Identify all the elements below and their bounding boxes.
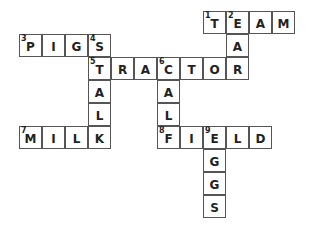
crossword-cell[interactable]: R [226,57,249,80]
cell-letter: D [250,132,271,146]
cell-letter: A [250,17,271,31]
crossword-cell[interactable]: O [203,57,226,80]
cell-letter: T [204,17,225,31]
crossword-grid: 1T2EAM3PIG4SA5TRA6CTORAALL7MILK8FI9ELDGG… [0,0,314,241]
crossword-cell[interactable]: L [226,126,249,149]
cell-letter: L [66,132,87,146]
cell-letter: S [204,201,225,215]
cell-letter: M [20,132,41,146]
cell-letter: P [20,40,41,54]
crossword-cell[interactable]: A [134,57,157,80]
cell-letter: C [158,63,179,77]
cell-letter: I [43,40,64,54]
crossword-cell[interactable]: G [203,172,226,195]
cell-letter: M [273,17,294,31]
cell-letter: T [181,63,202,77]
crossword-cell[interactable]: K [88,126,111,149]
crossword-cell[interactable]: 3P [19,34,42,57]
cell-letter: E [204,132,225,146]
crossword-cell[interactable]: 7M [19,126,42,149]
crossword-cell[interactable]: I [42,34,65,57]
crossword-cell[interactable]: S [203,195,226,218]
crossword-cell[interactable]: I [42,126,65,149]
cell-letter: A [89,86,110,100]
crossword-cell[interactable]: 4S [88,34,111,57]
crossword-cell[interactable]: R [111,57,134,80]
crossword-cell[interactable]: 9E [203,126,226,149]
crossword-cell[interactable]: A [249,11,272,34]
crossword-cell[interactable]: 1T [203,11,226,34]
cell-letter: S [89,40,110,54]
crossword-cell[interactable]: L [88,103,111,126]
cell-letter: T [89,63,110,77]
cell-letter: O [204,63,225,77]
crossword-cell[interactable]: 2E [226,11,249,34]
crossword-cell[interactable]: A [226,34,249,57]
cell-letter: A [227,40,248,54]
cell-letter: G [204,155,225,169]
cell-letter: L [89,109,110,123]
crossword-cell[interactable]: I [180,126,203,149]
cell-letter: F [158,132,179,146]
crossword-cell[interactable]: G [203,149,226,172]
cell-letter: L [227,132,248,146]
cell-letter: R [112,63,133,77]
cell-letter: R [227,63,248,77]
cell-letter: A [158,86,179,100]
cell-letter: I [181,132,202,146]
cell-letter: A [135,63,156,77]
cell-letter: L [158,109,179,123]
crossword-cell[interactable]: T [180,57,203,80]
crossword-cell[interactable]: D [249,126,272,149]
cell-letter: I [43,132,64,146]
cell-letter: G [204,178,225,192]
crossword-cell[interactable]: 8F [157,126,180,149]
cell-letter: E [227,17,248,31]
crossword-cell[interactable]: G [65,34,88,57]
crossword-cell[interactable]: L [157,103,180,126]
crossword-cell[interactable]: 5T [88,57,111,80]
crossword-cell[interactable]: L [65,126,88,149]
crossword-cell[interactable]: M [272,11,295,34]
cell-letter: K [89,132,110,146]
crossword-cell[interactable]: A [88,80,111,103]
cell-letter: G [66,40,87,54]
crossword-cell[interactable]: A [157,80,180,103]
crossword-cell[interactable]: 6C [157,57,180,80]
